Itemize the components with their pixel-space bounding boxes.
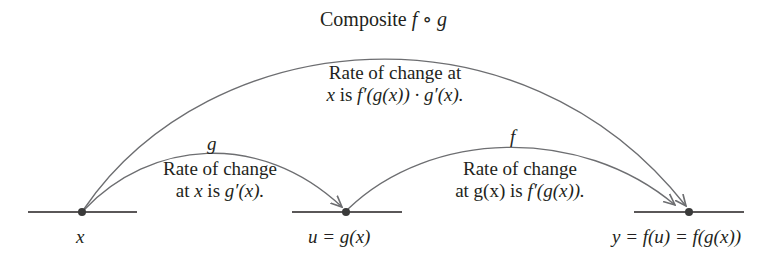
composite-rate-text: Rate of change at x is f′(g(x)) · g′(x). [305, 62, 485, 106]
g-rate-text: Rate of change at x is g′(x). [150, 158, 290, 202]
chain-rule-diagram [0, 0, 782, 256]
x-point [78, 208, 86, 216]
y-point [685, 208, 693, 216]
u-point-label: u = g(x) [308, 226, 370, 248]
u-point [342, 208, 350, 216]
f-rate-text: Rate of change at g(x) is f′(g(x)). [440, 158, 600, 202]
composite-title: Composite f ∘ g [320, 8, 447, 30]
y-point-label: y = f(u) = f(g(x)) [612, 226, 741, 248]
x-point-label: x [76, 226, 84, 248]
f-label: f [510, 126, 515, 148]
g-label: g [207, 133, 217, 155]
